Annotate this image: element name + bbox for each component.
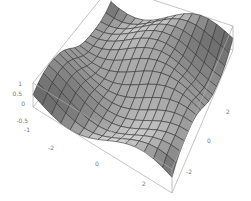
z-tick-neg0.5: -0.5 xyxy=(16,117,28,124)
z-tick-neg1: -1 xyxy=(24,126,30,133)
x-tick-0: 0 xyxy=(95,160,99,167)
x-axis-ticks: -2 0 2 xyxy=(48,144,146,187)
z-tick-0: 0 xyxy=(21,100,25,107)
x-tick-2: 2 xyxy=(142,180,146,187)
surface-plot: 1 0.5 0 -0.5 -1 -2 0 2 2 0 -2 xyxy=(0,0,251,201)
y-tick-neg2: -2 xyxy=(186,168,192,175)
y-tick-0: 0 xyxy=(207,137,211,144)
z-tick-1: 1 xyxy=(18,80,22,87)
x-tick-neg2: -2 xyxy=(48,144,54,151)
z-axis-ticks: 1 0.5 0 -0.5 -1 xyxy=(12,80,30,133)
y-tick-2: 2 xyxy=(226,108,230,115)
surface-mesh xyxy=(33,2,233,178)
z-tick-0.5: 0.5 xyxy=(12,90,22,97)
